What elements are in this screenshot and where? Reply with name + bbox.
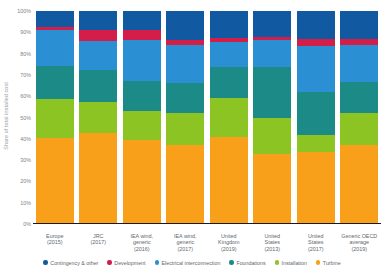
bar-column[interactable] [297,11,335,224]
legend-swatch-icon [107,260,111,264]
bar-segment[interactable] [79,30,117,41]
bar-segment[interactable] [297,135,335,152]
bar-segment[interactable] [123,11,161,30]
y-axis-tick: 10% [20,200,31,206]
x-axis-tick-labels: Europe(2015)JRC(2017)IEA wind,generic(20… [33,232,381,258]
legend-swatch-icon [229,260,233,264]
bar-segment[interactable] [297,11,335,39]
plot-area: Share of total installed cost 0%10%20%30… [0,0,384,232]
bar-segment[interactable] [123,81,161,111]
bar-segment[interactable] [166,145,204,224]
bar-segment[interactable] [36,138,74,224]
bar-segment[interactable] [297,152,335,224]
legend-label: Development [114,260,145,266]
bar-segment[interactable] [297,46,335,92]
y-axis-tick: 70% [20,72,31,78]
bar-segment[interactable] [340,11,378,39]
x-axis-tick: Europe(2015) [36,232,74,258]
bar-segment[interactable] [166,83,204,113]
y-axis-tick: 60% [20,93,31,99]
bar-segment[interactable] [210,137,248,224]
bar-segment[interactable] [123,111,161,140]
bar-segment[interactable] [253,118,291,154]
bar-column[interactable] [36,11,74,224]
legend-label: Electrical interconnection [162,260,221,266]
legend-item[interactable]: Foundations [229,260,265,266]
legend-label: Foundations [236,260,265,266]
y-axis-tick: 0% [23,221,31,227]
y-axis-tick: 30% [20,157,31,163]
y-axis-tick: 20% [20,178,31,184]
y-axis-title-text: Share of total installed cost [3,82,9,150]
bar-segment[interactable] [79,70,117,102]
bar-segment[interactable] [253,154,291,224]
bar-segment[interactable] [340,82,378,113]
bar-segment[interactable] [210,67,248,98]
bar-segment[interactable] [210,98,248,136]
x-axis-tick: JRC(2017) [79,232,117,258]
x-axis-tick: Generic OECDaverage(2019) [340,232,378,258]
bar-segment[interactable] [340,113,378,145]
bar-segment[interactable] [166,11,204,40]
y-axis-title: Share of total installed cost [0,0,11,232]
bar-segment[interactable] [36,11,74,27]
bar-segment[interactable] [340,145,378,224]
bar-segment[interactable] [79,41,117,70]
legend-item[interactable]: Installation [275,260,307,266]
y-axis-tick: 50% [20,115,31,121]
legend-label: Installation [282,260,307,266]
y-axis-tick: 90% [20,29,31,35]
legend-swatch-icon [275,260,279,264]
bar-column[interactable] [123,11,161,224]
bar-segment[interactable] [79,11,117,30]
bar-column[interactable] [79,11,117,224]
bar-segment[interactable] [36,99,74,137]
legend-swatch-icon [43,260,47,264]
x-axis-line [33,223,381,224]
bar-column[interactable] [210,11,248,224]
bar-segment[interactable] [79,102,117,134]
bar-segment[interactable] [253,11,291,37]
x-axis-tick: IEA wind,generic(2016) [123,232,161,258]
legend-swatch-icon [155,260,159,264]
x-axis-tick: UnitedStates(2017) [297,232,335,258]
y-axis-tick: 40% [20,136,31,142]
legend-item[interactable]: Development [107,260,145,266]
bar-segment[interactable] [166,45,204,83]
bar-segment[interactable] [166,113,204,145]
bar-group [33,11,381,224]
legend-item[interactable]: Electrical interconnection [155,260,221,266]
x-axis-tick: UnitedStates(2013) [253,232,291,258]
x-axis-tick: UnitedKingdom(2019) [210,232,248,258]
bar-segment[interactable] [297,92,335,135]
x-axis-tick: IEA wind,generic(2017) [166,232,204,258]
bar-segment[interactable] [123,40,161,82]
legend-label: Turbine [323,260,341,266]
chart-legend: Contingency & otherDevelopmentElectrical… [0,258,384,269]
bar-segment[interactable] [36,30,74,66]
bar-segment[interactable] [210,11,248,38]
bar-column[interactable] [253,11,291,224]
bar-segment[interactable] [210,42,248,68]
legend-item[interactable]: Contingency & other [43,260,98,266]
bar-segment[interactable] [297,39,335,46]
bar-segment[interactable] [79,133,117,224]
y-axis-tick: 80% [20,51,31,57]
legend-swatch-icon [316,260,320,264]
y-axis-tick-labels: 0%10%20%30%40%50%60%70%80%90%100% [11,0,33,232]
y-axis-tick: 100% [17,8,31,14]
bar-segment[interactable] [253,67,291,117]
stacked-bar-chart: Share of total installed cost 0%10%20%30… [0,0,384,269]
bar-segment[interactable] [36,66,74,99]
legend-label: Contingency & other [50,260,98,266]
bar-column[interactable] [340,11,378,224]
bar-segment[interactable] [123,140,161,224]
bars-region [33,0,381,232]
bar-segment[interactable] [123,30,161,40]
bar-column[interactable] [166,11,204,224]
bar-segment[interactable] [340,45,378,82]
bar-segment[interactable] [253,40,291,68]
legend-item[interactable]: Turbine [316,260,341,266]
